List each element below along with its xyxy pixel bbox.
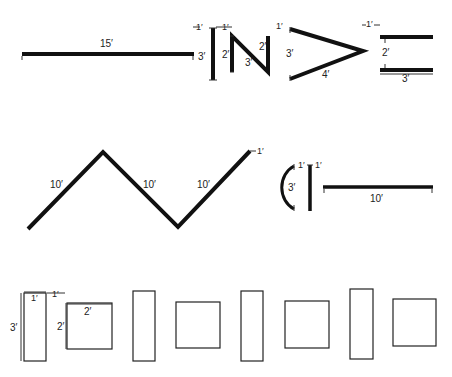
square-height-label: 2′ xyxy=(57,321,65,332)
tall-rect-width-label: 1′ xyxy=(31,293,38,303)
tall-rect-height-label: 3′ xyxy=(10,322,18,333)
chevron-height-label: 3′ xyxy=(286,48,294,59)
long-line-10ft-label: 10′ xyxy=(370,193,383,204)
post: 1′ xyxy=(307,160,322,211)
square xyxy=(393,299,436,346)
equals-spacing-label: 1′ xyxy=(366,19,373,29)
chevron-spacing-label: 1′ xyxy=(276,21,283,31)
tall-rect xyxy=(133,291,155,361)
equals-width-label: 3′ xyxy=(402,73,410,84)
letter-n: 2′ 3′ 2′ xyxy=(222,36,268,72)
chevron-lower-label: 4′ xyxy=(322,69,330,80)
equals-sign: 1′ 2′ 3′ xyxy=(362,19,433,84)
square-width-label: 2′ xyxy=(84,306,92,317)
arc-spacing-label: 1′ xyxy=(298,160,305,170)
arc-shape: 3′ 1′ xyxy=(282,160,305,211)
tall-rect xyxy=(350,289,373,359)
square xyxy=(176,302,220,348)
long-line-10ft: 10′ xyxy=(323,187,433,204)
equals-gap-label: 2′ xyxy=(382,47,390,58)
letter-i-height-label: 3′ xyxy=(198,51,206,62)
zigzag: 10′ 10′ 10′ 1′ xyxy=(28,146,264,229)
letter-n-diagonal-label: 3′ xyxy=(245,57,253,68)
square xyxy=(285,301,329,348)
square-dimensioned: 2′ 2′ xyxy=(57,303,112,349)
letter-n-left-label: 2′ xyxy=(222,49,230,60)
arc-height-label: 3′ xyxy=(288,182,296,193)
tall-rect xyxy=(241,291,263,361)
long-line-label: 15′ xyxy=(100,38,113,49)
letter-n-right-label: 2′ xyxy=(259,41,267,52)
zigzag-segment2-label: 10′ xyxy=(143,179,156,190)
diagram-canvas: 15′ 3′ 1′ 1′ 2′ 3′ 2′ 1′ 3′ 4′ 1′ 2′ xyxy=(0,0,452,377)
zigzag-segment1-label: 10′ xyxy=(50,179,63,190)
chevron: 1′ 3′ 4′ xyxy=(276,21,363,81)
post-spacing-label: 1′ xyxy=(315,160,322,170)
tall-rect-spacing-label: 1′ xyxy=(52,289,59,299)
long-line-15ft: 15′ xyxy=(22,38,194,60)
zigzag-segment3-label: 10′ xyxy=(197,179,210,190)
zigzag-end-spacing-label: 1′ xyxy=(257,146,264,156)
